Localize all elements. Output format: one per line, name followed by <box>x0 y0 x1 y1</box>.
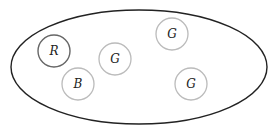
node-b: B <box>62 68 94 100</box>
diagram-canvas: R G G B G <box>0 0 270 128</box>
node-label: G <box>186 77 196 91</box>
node-g3: G <box>175 68 207 100</box>
node-g1: G <box>99 43 131 75</box>
node-label: R <box>48 44 58 58</box>
node-label: G <box>167 27 177 41</box>
node-label: B <box>73 77 83 91</box>
node-r: R <box>38 35 70 67</box>
node-g2: G <box>156 18 188 50</box>
node-label: G <box>110 52 120 66</box>
